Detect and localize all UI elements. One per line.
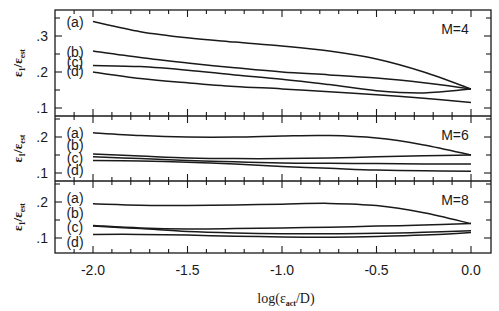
series-line-d: [93, 160, 471, 171]
y-tick-label: .2: [36, 129, 48, 145]
y-tick-label: .3: [36, 28, 48, 44]
panel-m4: .1.2.3M=4(a)(b)(c)(d)ε1/εest: [10, 10, 491, 116]
chart-figure: .1.2.3M=4(a)(b)(c)(d)ε1/εest.1.2M=6(a)(b…: [0, 0, 499, 311]
panel-title: M=4: [441, 21, 469, 37]
y-axis-label: ε1/εest: [10, 203, 27, 231]
x-tick-label: -2.0: [81, 262, 105, 278]
x-tick-label: -0.5: [364, 262, 388, 278]
plot-frame: [55, 10, 491, 253]
series-label-d: (d): [66, 63, 83, 79]
y-tick-label: .2: [36, 194, 48, 210]
series-line-d: [93, 72, 471, 103]
series-line-a: [93, 203, 471, 223]
x-axis-label: log(εact/D): [257, 291, 315, 308]
y-tick-label: .1: [36, 230, 48, 246]
y-tick-label: .1: [36, 100, 48, 116]
x-tick-label: 0.0: [461, 262, 481, 278]
panel-m8: .1.2M=8(a)(b)(c)(d)ε1/εest: [10, 181, 491, 253]
series-line-b: [93, 154, 471, 159]
series-label-c: (c): [67, 219, 83, 235]
series-label-a: (a): [66, 14, 83, 30]
series-label-d: (d): [66, 162, 83, 178]
panel-title: M=6: [441, 127, 469, 143]
x-tick-label: -1.0: [270, 262, 294, 278]
y-axis-label: ε1/εest: [10, 49, 27, 77]
x-tick-label: -1.5: [175, 262, 199, 278]
y-tick-label: .2: [36, 64, 48, 80]
series-line-a: [93, 133, 471, 155]
series-line-b: [93, 224, 471, 229]
series-label-b: (b): [66, 205, 83, 221]
series-label-d: (d): [66, 234, 83, 250]
y-tick-label: .1: [36, 165, 48, 181]
y-axis-label: ε1/εest: [10, 134, 27, 162]
series-label-a: (a): [66, 190, 83, 206]
panel-title: M=8: [441, 192, 469, 208]
panel-m6: .1.2M=6(a)(b)(c)(d)ε1/εest: [10, 116, 491, 181]
series-line-b: [93, 51, 471, 89]
